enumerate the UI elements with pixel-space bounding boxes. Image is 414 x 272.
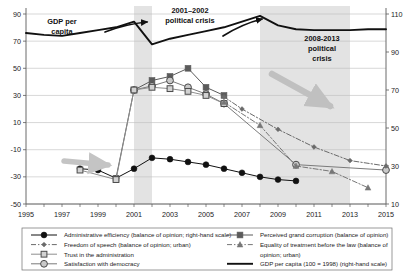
x-tick-label-2009: 2009 (270, 210, 286, 219)
series-marker-administrative-efficiency-12 (293, 178, 299, 184)
series-marker-trust-in-the-administration-4 (167, 86, 173, 92)
y-tick-label-left--10: -10 (11, 145, 21, 154)
legend-label-equality-of-treatment: Equality of treatment before the law (ba… (260, 241, 388, 248)
series-marker-administrative-efficiency-11 (275, 177, 281, 183)
series-marker-trust-in-the-administration-2 (131, 87, 137, 93)
annotation-crisis-2008-line1: 2008-2013 (304, 34, 339, 43)
y-tick-label-left--30: -30 (11, 172, 21, 181)
shaded-band-band-2001-2002 (134, 6, 152, 204)
legend-label-gdp-per-capita: GDP per capita (100 = 1998) (right-hand … (260, 260, 387, 267)
annotation-crisis-2001-line1: 2001–2002 (172, 6, 209, 15)
y-tick-label-right-90: 90 (391, 48, 399, 57)
series-marker-trust-in-the-administration-5 (185, 88, 191, 94)
y-tick-label-right-30: 30 (391, 162, 399, 171)
series-marker-administrative-efficiency-5 (167, 156, 173, 162)
x-tick-label-1995: 1995 (18, 210, 34, 219)
y-tick-label-right-10: 10 (391, 200, 399, 209)
x-tick-label-2001: 2001 (126, 210, 142, 219)
chart-container: 9070503010-10-30-50110907050301019951997… (0, 0, 414, 272)
legend-label-administrative-efficiency: Administrative efficiency (balance of op… (64, 231, 231, 238)
series-marker-administrative-efficiency-10 (257, 174, 263, 180)
y-tick-label-left--50: -50 (11, 200, 21, 209)
x-tick-label-1999: 1999 (90, 210, 106, 219)
series-marker-administrative-efficiency-6 (185, 159, 191, 165)
gdp-governance-line-chart: 9070503010-10-30-50110907050301019951997… (0, 0, 414, 272)
legend-sample-marker-administrative-efficiency (41, 232, 47, 238)
series-marker-administrative-efficiency-8 (221, 166, 227, 172)
series-marker-perceived-grand-corruption-5 (203, 84, 209, 90)
y-tick-label-right-50: 50 (391, 124, 399, 133)
legend-label-perceived-grand-corruption: Perceived grand corruption (balance of o… (260, 231, 388, 238)
series-marker-administrative-efficiency-7 (203, 162, 209, 168)
x-tick-label-2007: 2007 (234, 210, 250, 219)
annotation-gdp-per-capita-line1: GDP per (47, 17, 77, 26)
y-tick-label-left-90: 90 (13, 10, 21, 19)
y-tick-label-left-30: 30 (13, 91, 21, 100)
series-marker-trust-in-the-administration-1 (113, 177, 119, 183)
annotation-crisis-2001-line2: political crisis (165, 16, 214, 25)
x-tick-label-2013: 2013 (342, 210, 358, 219)
y-tick-label-left-50: 50 (13, 64, 21, 73)
legend-sample-marker-perceived-grand-corruption-r (237, 232, 243, 238)
legend-sample-marker-satisfaction-with-democracy (41, 260, 48, 267)
y-tick-label-left-70: 70 (13, 37, 21, 46)
series-marker-administrative-efficiency-3 (131, 166, 137, 172)
series-marker-administrative-efficiency-9 (239, 170, 245, 176)
annotation-crisis-2008-line2: political (308, 44, 336, 53)
series-marker-administrative-efficiency-4 (149, 155, 155, 161)
y-tick-label-right-70: 70 (391, 86, 399, 95)
series-marker-administrative-efficiency-1 (95, 167, 101, 173)
y-tick-label-right-110: 110 (391, 10, 402, 19)
series-marker-satisfaction-with-democracy-2 (167, 77, 174, 84)
series-marker-trust-in-the-administration-3 (149, 84, 155, 90)
legend-label-equality-of-treatment-2: opinion; urban) (260, 251, 301, 258)
x-tick-label-2015: 2015 (378, 210, 394, 219)
legend-label-satisfaction-with-democracy: Satisfaction with democracy (64, 260, 140, 267)
series-marker-perceived-grand-corruption-4 (185, 65, 191, 71)
series-marker-trust-in-the-administration-6 (203, 93, 209, 99)
series-marker-trust-in-the-administration-0 (77, 167, 83, 173)
legend-label-freedom-of-speech: Freedom of speech (balance of opinion; u… (64, 241, 191, 248)
y-tick-label-left-10: 10 (13, 118, 21, 127)
annotation-crisis-2008-line3: crisis (312, 54, 331, 63)
x-tick-label-2005: 2005 (198, 210, 214, 219)
x-tick-label-2003: 2003 (162, 210, 178, 219)
x-tick-label-2011: 2011 (306, 210, 321, 219)
legend-sample-marker-trust-in-the-administration (41, 251, 47, 257)
legend-label-trust-in-the-administration: Trust in the administration (64, 251, 134, 258)
annotation-gdp-per-capita-line2: capita (51, 27, 73, 36)
x-tick-label-1997: 1997 (54, 210, 70, 219)
